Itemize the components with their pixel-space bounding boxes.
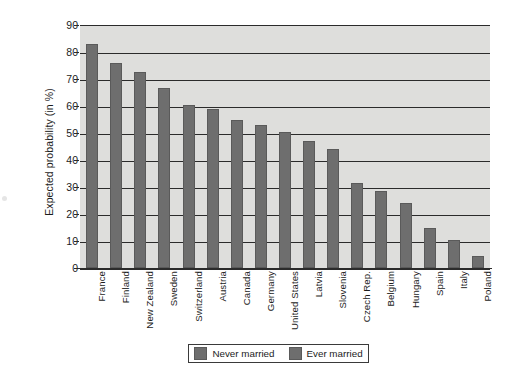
x-axis-label-wrapper: New Zealand (144, 271, 155, 329)
bar (110, 63, 122, 268)
x-axis-label-wrapper: Spain (434, 271, 445, 296)
y-axis-tick-label: 60 (0, 100, 78, 112)
bar (86, 44, 98, 268)
y-axis-tick-label: 0 (0, 262, 78, 274)
bar (207, 109, 219, 268)
y-axis-tick-mark (74, 241, 79, 242)
legend-item-never-married: Never married (194, 347, 274, 360)
legend-swatch-icon (289, 347, 302, 360)
y-axis-tick-label: 90 (0, 19, 78, 31)
x-axis-label-wrapper: Belgium (385, 271, 396, 306)
bar (400, 203, 412, 268)
x-axis-tick-label: Slovenia (337, 271, 348, 309)
y-axis-tick-mark (74, 106, 79, 107)
bar (327, 149, 339, 268)
x-axis-label-wrapper: Hungary (410, 271, 421, 308)
x-axis-tick-label: Canada (241, 271, 252, 305)
x-axis-tick-label: Sweden (168, 271, 179, 306)
bar (472, 256, 484, 268)
x-axis-label-wrapper: Sweden (168, 271, 179, 306)
legend-label-never-married: Never married (212, 348, 274, 359)
y-axis-tick-label: 50 (0, 127, 78, 139)
bar (424, 228, 436, 269)
y-axis-tick-mark (74, 133, 79, 134)
x-axis-labels: FranceFinlandNew ZealandSwedenSwitzerlan… (80, 271, 490, 341)
y-axis-tick-mark (74, 25, 79, 26)
x-axis-tick-label: Germany (265, 271, 276, 311)
x-axis-label-wrapper: United States (289, 271, 300, 330)
legend-swatch-icon (194, 347, 207, 360)
x-axis-label-wrapper: Italy (458, 271, 469, 289)
scan-artifact (2, 196, 7, 201)
y-axis-tick-label: 80 (0, 46, 78, 58)
x-axis-tick-label: Czech Rep. (361, 271, 372, 322)
x-axis-tick-label: Italy (458, 271, 469, 289)
x-axis-label-wrapper: Canada (241, 271, 252, 305)
x-axis-label-wrapper: Austria (217, 271, 228, 302)
x-axis-tick-label: Austria (217, 271, 228, 302)
y-axis-tick-mark (74, 160, 79, 161)
x-axis-tick-label: Poland (482, 271, 493, 301)
bar (448, 240, 460, 268)
legend-item-ever-married: Ever married (289, 347, 363, 360)
x-axis-label-wrapper: Finland (120, 271, 131, 303)
y-axis-tick-mark (74, 187, 79, 188)
x-axis-label-wrapper: Latvia (313, 271, 324, 297)
legend-label-ever-married: Ever married (307, 348, 363, 359)
bar (303, 141, 315, 268)
x-axis-tick-label: Belgium (385, 271, 396, 306)
x-axis-tick-label: Hungary (410, 271, 421, 308)
y-axis-tick-label: 70 (0, 73, 78, 85)
x-axis-label-wrapper: France (96, 271, 107, 301)
bar (375, 191, 387, 268)
x-axis-tick-label: Spain (434, 271, 445, 296)
y-axis-tick-label: 20 (0, 208, 78, 220)
bar (134, 72, 146, 268)
bar (158, 88, 170, 268)
gridline (80, 269, 490, 270)
bar (279, 132, 291, 268)
bar (231, 120, 243, 269)
x-axis-tick-label: Switzerland (193, 271, 204, 322)
x-axis-tick-label: New Zealand (144, 271, 155, 329)
x-axis-tick-label: Finland (120, 271, 131, 303)
bar-chart: Expected probability (in %) 908070605040… (0, 0, 513, 388)
x-axis-tick-label: United States (289, 271, 300, 330)
bar (255, 125, 267, 268)
y-axis-tick-mark (74, 214, 79, 215)
bars-group (80, 25, 490, 268)
x-axis-label-wrapper: Poland (482, 271, 493, 301)
bar (351, 183, 363, 268)
y-axis-tick-label: 40 (0, 154, 78, 166)
x-axis-tick-label: Latvia (313, 271, 324, 297)
x-axis-line (78, 268, 492, 269)
y-axis-tick-mark (74, 52, 79, 53)
bar (183, 105, 195, 268)
y-axis-tick-label: 30 (0, 181, 78, 193)
y-axis-tick-mark (74, 79, 79, 80)
x-axis-label-wrapper: Slovenia (337, 271, 348, 309)
x-axis-label-wrapper: Germany (265, 271, 276, 311)
x-axis-tick-label: France (96, 271, 107, 301)
x-axis-label-wrapper: Switzerland (193, 271, 204, 322)
x-axis-label-wrapper: Czech Rep. (361, 271, 372, 322)
y-axis-tick-label: 10 (0, 235, 78, 247)
legend: Never married Ever married (188, 344, 369, 363)
